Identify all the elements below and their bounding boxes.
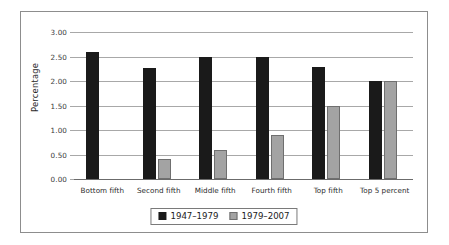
legend-swatch-icon [230, 212, 238, 220]
chart-figure-frame: Percentage 0.000.501.001.502.002.503.00 … [20, 11, 428, 233]
legend-entry: 1979–2007 [230, 211, 290, 221]
bar [199, 57, 212, 180]
y-axis-tick-label: 0.00 [51, 175, 67, 184]
bar [158, 159, 171, 179]
bar-group: Fourth fifth [244, 32, 301, 179]
x-axis-category-label: Top fifth [300, 186, 357, 195]
bar [256, 57, 269, 180]
bar-group: Top 5 percent [357, 32, 414, 179]
y-axis-tick-label: 2.00 [51, 77, 67, 86]
legend-swatch-icon [158, 212, 166, 220]
x-axis-category-label: Fourth fifth [244, 186, 301, 195]
x-axis-category-label: Second fifth [131, 186, 188, 195]
bar [327, 106, 340, 180]
y-axis-tick-label: 2.50 [51, 52, 67, 61]
legend-label: 1947–1979 [170, 211, 218, 221]
chart-legend: 1947–19791979–2007 [150, 208, 297, 225]
y-axis-tick-label: 1.00 [51, 126, 67, 135]
y-axis-tick-label: 0.50 [51, 150, 67, 159]
bar [312, 67, 325, 179]
bar-group: Top fifth [300, 32, 357, 179]
x-axis-category-label: Middle fifth [187, 186, 244, 195]
bar [143, 68, 156, 179]
legend-label: 1979–2007 [242, 211, 290, 221]
bar-group: Second fifth [131, 32, 188, 179]
x-axis-category-label: Top 5 percent [357, 186, 414, 195]
bar [214, 150, 227, 179]
legend-entry: 1947–1979 [158, 211, 218, 221]
bar-group: Bottom fifth [74, 32, 131, 179]
bar [369, 81, 382, 179]
bar [271, 135, 284, 179]
bar [384, 81, 397, 179]
y-axis-tick-label: 3.00 [51, 28, 67, 37]
plot-area: 0.000.501.001.502.002.503.00 Bottom fift… [74, 32, 413, 179]
x-axis-category-label: Bottom fifth [74, 186, 131, 195]
bar [86, 52, 99, 179]
y-axis-title: Percentage [30, 63, 40, 112]
y-axis-tick-mark [70, 179, 74, 180]
gridline [74, 179, 413, 180]
y-axis-tick-label: 1.50 [51, 101, 67, 110]
bar-group: Middle fifth [187, 32, 244, 179]
